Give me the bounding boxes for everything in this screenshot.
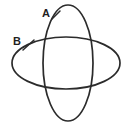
ellipse-diagram (0, 0, 127, 128)
label-b: B (13, 36, 21, 47)
diagram-canvas: A B (0, 0, 127, 128)
label-a: A (42, 8, 50, 19)
vertical-ellipse-a (43, 5, 93, 121)
leader-line-b (23, 40, 34, 50)
